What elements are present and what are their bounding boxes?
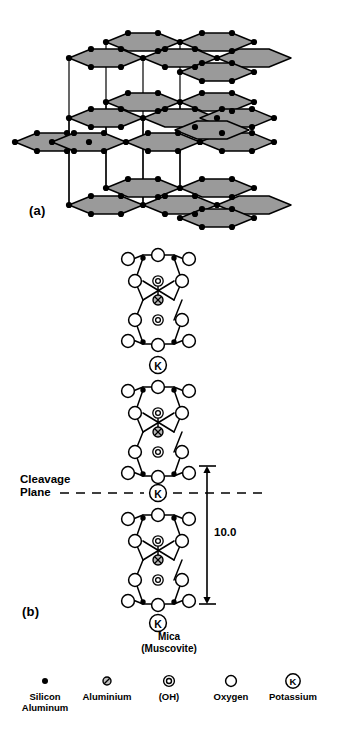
svg-text:K: K xyxy=(154,488,162,500)
panel-label-a: (a) xyxy=(29,203,46,218)
legend: Silicon Aluminum Aluminium (OH) xyxy=(0,672,338,713)
potassium-k-circle-icon: K xyxy=(283,672,303,689)
mica-caption: Mica (Muscovite) xyxy=(0,631,338,655)
legend-label-silicon-aluminum: Silicon Aluminum xyxy=(22,691,68,713)
legend-label-oxygen: Oxygen xyxy=(214,691,249,702)
diagram-canvas: K xyxy=(0,0,338,738)
panel-a-lattice xyxy=(12,30,291,230)
potassium-ion-1: K xyxy=(150,357,167,374)
mica-structure-figure: K xyxy=(0,0,338,738)
aluminium-atom xyxy=(153,427,163,437)
dimension-value-label: 10.0 xyxy=(214,526,236,538)
legend-item-silicon-aluminum: Silicon Aluminum xyxy=(14,672,76,713)
legend-label-potassium: Potassium xyxy=(269,691,317,702)
legend-item-hydroxyl: (OH) xyxy=(138,672,200,713)
cleavage-plane-label: Cleavage Plane xyxy=(20,473,71,498)
mica-sheet-unit-1 xyxy=(122,249,196,352)
silicon-aluminum-dot-icon xyxy=(36,672,54,689)
oxygen-open-circle-icon xyxy=(222,672,240,689)
legend-item-potassium: K Potassium xyxy=(262,672,324,713)
mineral-variety: (Muscovite) xyxy=(0,643,338,655)
svg-text:K: K xyxy=(154,360,162,372)
cleavage-plane-label-line2: Plane xyxy=(20,486,71,499)
legend-label-aluminium: Aluminium xyxy=(82,691,131,702)
aluminium-atom xyxy=(153,295,163,305)
aluminium-atom xyxy=(153,555,163,565)
panel-label-b: (b) xyxy=(22,604,39,619)
legend-item-aluminium: Aluminium xyxy=(76,672,138,713)
potassium-ion-2: K xyxy=(150,485,167,502)
svg-text:K: K xyxy=(290,676,297,687)
svg-text:K: K xyxy=(154,618,162,630)
legend-label-hydroxyl: (OH) xyxy=(159,691,180,702)
potassium-ion-3: K xyxy=(150,615,167,632)
aluminium-slashed-circle-icon xyxy=(98,672,116,689)
panel-b-crosssection: K xyxy=(60,249,268,632)
cleavage-plane-label-line1: Cleavage xyxy=(20,473,71,486)
mica-sheet-unit-3 xyxy=(122,509,196,612)
legend-item-oxygen: Oxygen xyxy=(200,672,262,713)
mica-sheet-unit-2 xyxy=(122,381,196,484)
hydroxyl-double-circle-icon xyxy=(160,672,178,689)
mineral-name: Mica xyxy=(0,631,338,643)
